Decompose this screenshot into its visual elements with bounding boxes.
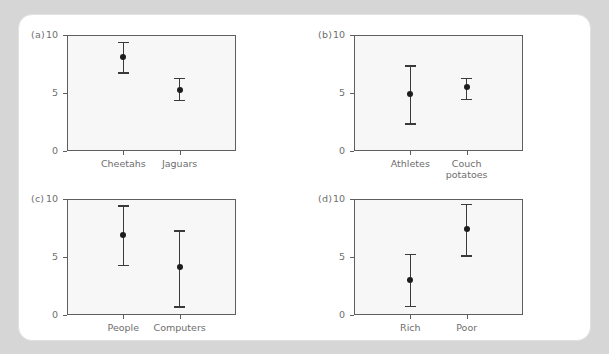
y-tick-label: 10 — [327, 194, 345, 204]
y-tick-label: 0 — [327, 310, 345, 320]
error-bar-cap-lower — [461, 255, 472, 256]
error-bar-cap-upper — [461, 204, 472, 205]
error-bar-cap-upper — [405, 254, 416, 255]
x-tick-mark — [410, 315, 411, 319]
x-tick-label: Poor — [425, 322, 509, 333]
data-point — [464, 226, 470, 232]
y-tick-mark — [350, 315, 354, 316]
chart-panel-d: (d)0510RichPoor — [19, 15, 592, 342]
plot-area — [354, 199, 523, 315]
data-point — [407, 277, 413, 283]
y-tick-label: 5 — [327, 252, 345, 262]
figure-card: (a)0510CheetahsJaguars(b)0510AthletesCou… — [18, 14, 591, 341]
y-tick-mark — [350, 257, 354, 258]
y-tick-mark — [350, 199, 354, 200]
error-bar-cap-lower — [405, 306, 416, 307]
x-tick-mark — [467, 315, 468, 319]
